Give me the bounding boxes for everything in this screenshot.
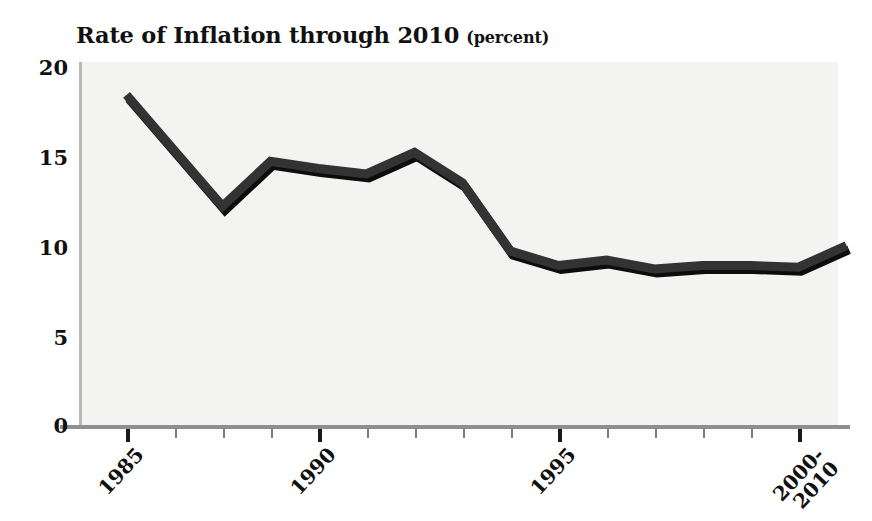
data-line-shadow [129, 99, 849, 273]
data-line-svg [0, 0, 872, 521]
data-line-series [127, 95, 847, 269]
chart-figure: Rate of Inflation through 2010(percent) … [0, 0, 872, 521]
